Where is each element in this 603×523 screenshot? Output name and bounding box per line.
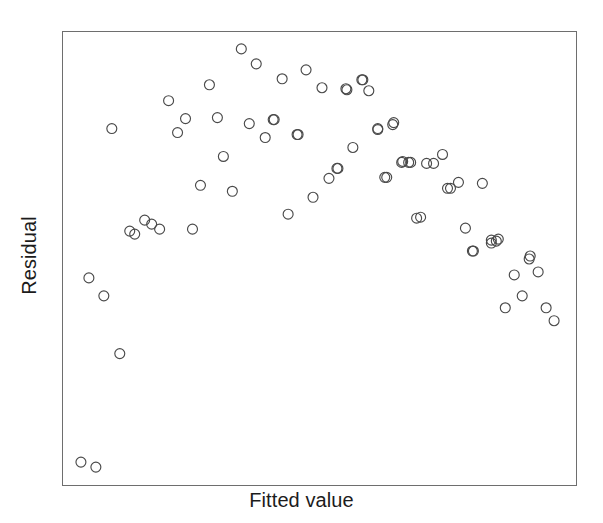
- data-points-layer: [63, 32, 576, 485]
- data-point: [380, 172, 390, 182]
- data-point: [389, 118, 399, 128]
- data-point: [181, 114, 191, 124]
- data-point: [477, 178, 487, 188]
- data-point: [188, 224, 198, 234]
- data-point: [107, 124, 117, 134]
- data-point: [212, 113, 222, 123]
- data-point: [283, 209, 293, 219]
- data-point: [332, 163, 342, 173]
- data-point: [446, 183, 456, 193]
- data-point: [301, 65, 311, 75]
- data-point: [268, 115, 278, 125]
- data-point: [438, 149, 448, 159]
- data-point: [236, 44, 246, 54]
- data-point: [84, 273, 94, 283]
- data-point: [357, 75, 367, 85]
- y-axis-label: Residual: [18, 131, 41, 381]
- data-point: [443, 183, 453, 193]
- data-point: [269, 115, 279, 125]
- data-point: [227, 186, 237, 196]
- data-point: [364, 86, 374, 96]
- data-point: [541, 303, 551, 313]
- data-point: [147, 219, 157, 229]
- data-point: [486, 235, 496, 245]
- data-point: [382, 172, 392, 182]
- data-point: [517, 291, 527, 301]
- data-point: [324, 173, 334, 183]
- data-point: [251, 59, 261, 69]
- data-point: [292, 130, 302, 140]
- data-point: [341, 84, 351, 94]
- data-point: [404, 157, 414, 167]
- data-point: [115, 349, 125, 359]
- data-point: [76, 457, 86, 467]
- data-point: [460, 223, 470, 233]
- data-point: [140, 215, 150, 225]
- data-point: [412, 213, 422, 223]
- data-point: [549, 316, 559, 326]
- plot-frame: [62, 31, 577, 486]
- data-point: [155, 224, 165, 234]
- data-point: [317, 83, 327, 93]
- scatter-plot-figure: Residual Fitted value: [0, 0, 603, 523]
- data-point: [468, 246, 478, 256]
- data-point: [308, 192, 318, 202]
- data-point: [453, 177, 463, 187]
- data-point: [486, 238, 496, 248]
- data-point: [125, 226, 135, 236]
- data-point: [342, 85, 352, 95]
- data-point: [467, 246, 477, 256]
- data-point: [195, 180, 205, 190]
- data-point: [429, 158, 439, 168]
- x-axis-label: Fitted value: [0, 489, 603, 512]
- data-point: [358, 75, 368, 85]
- data-point: [524, 254, 534, 264]
- data-point: [422, 158, 432, 168]
- data-point: [373, 124, 383, 134]
- data-point: [397, 157, 407, 167]
- data-point: [164, 96, 174, 106]
- y-axis-label-container: Residual: [0, 0, 62, 523]
- data-point: [333, 163, 343, 173]
- data-point: [91, 462, 101, 472]
- data-point: [348, 143, 358, 153]
- data-point: [398, 156, 408, 166]
- data-point: [277, 74, 287, 84]
- data-point: [491, 236, 501, 246]
- data-point: [99, 291, 109, 301]
- data-point: [533, 267, 543, 277]
- data-point: [204, 80, 214, 90]
- data-point: [406, 157, 416, 167]
- data-point: [525, 251, 535, 261]
- data-point: [373, 125, 383, 135]
- data-point: [493, 234, 503, 244]
- data-point: [130, 229, 140, 239]
- data-point: [388, 120, 398, 130]
- data-point: [293, 130, 303, 140]
- data-point: [218, 151, 228, 161]
- data-point: [509, 270, 519, 280]
- data-point: [244, 119, 254, 129]
- data-point: [416, 212, 426, 222]
- data-point: [260, 133, 270, 143]
- data-point: [500, 303, 510, 313]
- data-point: [173, 128, 183, 138]
